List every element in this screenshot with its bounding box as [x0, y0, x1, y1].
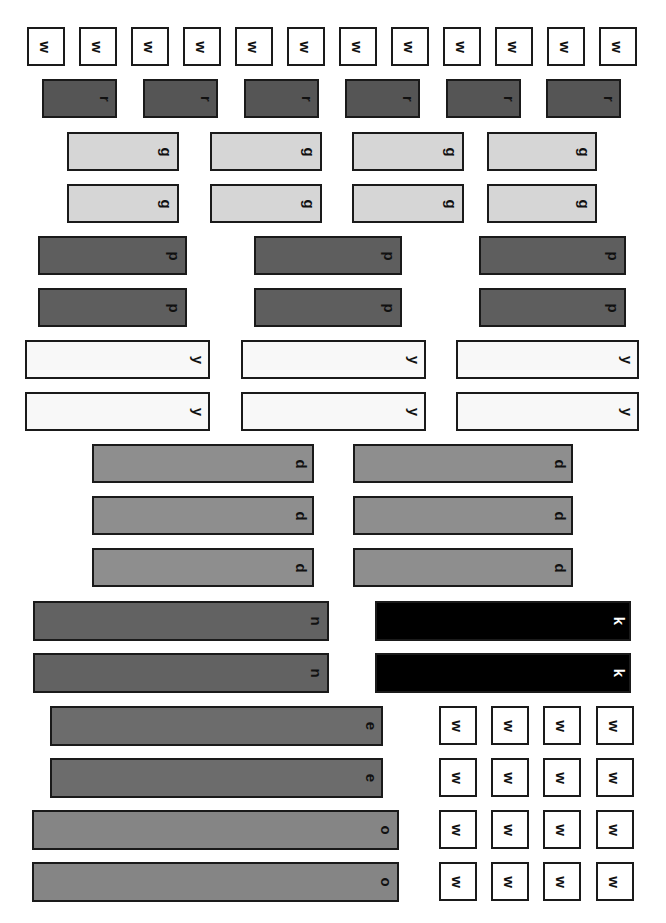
rod-w: w [596, 758, 634, 797]
rod-label: r [99, 96, 114, 102]
rod-label: w [608, 824, 623, 836]
rod-g: g [352, 132, 464, 171]
rod-w: w [547, 27, 585, 66]
rod-w: w [491, 810, 529, 849]
rod-label: w [451, 876, 466, 888]
rod-k: k [375, 653, 631, 693]
rod-w: w [495, 27, 533, 66]
rod-y: y [241, 340, 426, 379]
rod-d: d [92, 496, 314, 535]
rod-label: w [555, 824, 570, 836]
rod-g: g [487, 132, 597, 171]
rod-label: w [143, 41, 158, 53]
rod-p: p [479, 288, 626, 327]
rod-r: r [42, 79, 117, 118]
rod-w: w [287, 27, 325, 66]
rod-n: n [33, 601, 329, 641]
rod-e: e [50, 758, 383, 798]
rod-w: w [235, 27, 273, 66]
rod-g: g [67, 132, 179, 171]
rod-label: y [619, 355, 634, 363]
rod-g: g [67, 184, 179, 223]
rod-r: r [446, 79, 521, 118]
rod-label: w [611, 41, 626, 53]
rod-y: y [456, 392, 639, 431]
rod-g: g [487, 184, 597, 223]
rod-y: y [241, 392, 426, 431]
rod-label: p [382, 251, 397, 260]
rod-label: d [553, 459, 568, 468]
rod-d: d [92, 444, 314, 483]
rod-label: g [444, 199, 459, 208]
rod-label: w [555, 772, 570, 784]
rod-label: w [39, 41, 54, 53]
rod-label: w [555, 720, 570, 732]
rod-p: p [254, 288, 402, 327]
rod-label: y [406, 407, 421, 415]
rod-p: p [254, 236, 402, 275]
rod-label: p [167, 251, 182, 260]
rod-r: r [345, 79, 420, 118]
rod-d: d [353, 496, 573, 535]
rod-label: w [608, 876, 623, 888]
rod-k: k [375, 601, 631, 641]
rod-r: r [143, 79, 218, 118]
rod-w: w [27, 27, 65, 66]
rod-label: w [455, 41, 470, 53]
rod-w: w [543, 810, 581, 849]
rod-w: w [391, 27, 429, 66]
rod-w: w [599, 27, 637, 66]
rod-n: n [33, 653, 329, 693]
rod-g: g [210, 132, 322, 171]
rod-p: p [38, 236, 187, 275]
rod-label: o [379, 877, 394, 886]
rod-label: k [611, 617, 626, 625]
rod-d: d [353, 548, 573, 587]
rod-label: w [451, 772, 466, 784]
rod-y: y [25, 392, 210, 431]
rod-label: w [195, 41, 210, 53]
rod-w: w [439, 862, 477, 901]
rod-label: r [603, 96, 618, 102]
rod-label: y [619, 407, 634, 415]
rod-label: w [503, 772, 518, 784]
rod-y: y [25, 340, 210, 379]
rod-w: w [491, 706, 529, 745]
rod-label: w [503, 824, 518, 836]
rod-label: e [363, 722, 378, 730]
rod-label: w [555, 876, 570, 888]
rod-o: o [32, 862, 399, 902]
rod-label: d [553, 563, 568, 572]
rod-label: p [606, 251, 621, 260]
rod-label: p [167, 303, 182, 312]
rod-label: o [379, 825, 394, 834]
rod-w: w [543, 706, 581, 745]
rod-label: y [190, 407, 205, 415]
rod-w: w [596, 810, 634, 849]
rod-g: g [210, 184, 322, 223]
rod-label: g [159, 199, 174, 208]
rod-g: g [352, 184, 464, 223]
rod-label: e [363, 774, 378, 782]
rod-r: r [546, 79, 621, 118]
rod-label: d [294, 459, 309, 468]
rod-p: p [479, 236, 626, 275]
rod-label: w [503, 876, 518, 888]
cuisenaire-rod-diagram: wwwwwwwwwwwwrrrrrrggggggggppppppyyyyyydd… [0, 0, 666, 923]
rod-label: d [553, 511, 568, 520]
rod-label: r [503, 96, 518, 102]
rod-d: d [92, 548, 314, 587]
rod-p: p [38, 288, 187, 327]
rod-w: w [443, 27, 481, 66]
rod-label: g [577, 147, 592, 156]
rod-label: n [309, 616, 324, 625]
rod-label: g [444, 147, 459, 156]
rod-y: y [456, 340, 639, 379]
rod-label: w [559, 41, 574, 53]
rod-w: w [439, 706, 477, 745]
rod-e: e [50, 706, 383, 746]
rod-label: w [247, 41, 262, 53]
rod-w: w [131, 27, 169, 66]
rod-label: r [402, 96, 417, 102]
rod-label: r [200, 96, 215, 102]
